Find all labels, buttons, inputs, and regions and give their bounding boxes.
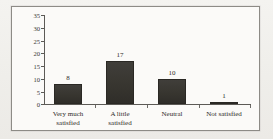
chart-screenshot: 35 30 25 20 15 10 5 0 8 17 10 1 Very muc… [0, 0, 273, 139]
y-tick-label-10: 10 [34, 76, 40, 83]
x-tick-mark-4 [250, 105, 251, 108]
x-tick-mark-3 [199, 105, 200, 108]
y-tick-mark-15 [41, 66, 45, 67]
y-tick-label-35: 35 [34, 12, 40, 19]
x-category-label-not-satisfied: Not satisfied [194, 110, 254, 119]
x-category-label-line2: satisfied [40, 119, 96, 128]
x-category-label-line1: Not satisfied [206, 110, 242, 118]
x-tick-mark-1 [95, 105, 96, 108]
bar-neutral[interactable] [158, 79, 186, 104]
bar-not-satisfied[interactable] [210, 102, 238, 105]
bar-very-much-satisfied[interactable] [54, 84, 82, 104]
x-category-label-line2: satisfied [92, 119, 148, 128]
y-tick-label-0: 0 [37, 101, 40, 108]
x-category-label-line1: A little [110, 110, 129, 118]
x-tick-mark-2 [147, 105, 148, 108]
y-tick-mark-10 [41, 79, 45, 80]
y-tick-label-20: 20 [34, 50, 40, 57]
y-tick-label-5: 5 [37, 89, 40, 96]
x-category-label-a-little-satisfied: A little satisfied [92, 110, 148, 127]
bar-value-neutral: 10 [158, 69, 186, 77]
y-tick-mark-30 [41, 28, 45, 29]
bar-chart-plot: 35 30 25 20 15 10 5 0 8 17 10 1 Very muc… [0, 0, 273, 139]
y-tick-mark-20 [41, 53, 45, 54]
y-tick-label-15: 15 [34, 63, 40, 70]
bar-value-very-much-satisfied: 8 [54, 74, 82, 82]
bar-a-little-satisfied[interactable] [106, 61, 134, 104]
y-tick-label-25: 25 [34, 38, 40, 45]
x-category-label-line1: Very much [53, 110, 84, 118]
y-tick-mark-5 [41, 92, 45, 93]
y-tick-mark-25 [41, 41, 45, 42]
y-tick-mark-0 [41, 104, 45, 105]
y-tick-mark-35 [41, 15, 45, 16]
x-category-label-neutral: Neutral [144, 110, 200, 119]
x-category-label-very-much-satisfied: Very much satisfied [40, 110, 96, 127]
x-category-label-line1: Neutral [162, 110, 183, 118]
y-tick-label-30: 30 [34, 25, 40, 32]
bar-value-not-satisfied: 1 [210, 92, 238, 100]
bar-value-a-little-satisfied: 17 [106, 51, 134, 59]
